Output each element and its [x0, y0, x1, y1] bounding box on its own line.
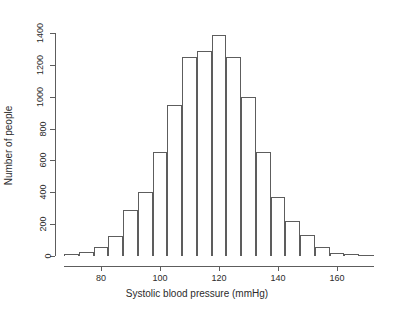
histogram-bar: [315, 247, 330, 256]
x-axis-tick: [101, 266, 102, 271]
histogram-bar: [241, 97, 256, 256]
y-axis-tick: [50, 129, 55, 130]
y-axis-tick: [50, 160, 55, 161]
histogram-bar: [271, 197, 286, 256]
histogram-bar: [359, 255, 374, 256]
histogram-bar: [285, 221, 300, 256]
y-axis-tick-label-wrap: 1000: [22, 83, 50, 111]
x-axis-tick-label: 120: [199, 273, 239, 283]
histogram-bar: [123, 210, 138, 256]
y-axis-tick-label-wrap: 200: [22, 210, 50, 238]
histogram-bar: [330, 253, 345, 256]
histogram-bar: [212, 35, 227, 256]
y-axis-tick-label: 400: [37, 185, 47, 200]
histogram-bar: [300, 235, 315, 256]
y-axis-tick: [50, 224, 55, 225]
histogram-figure: Number of people 02004006008001000120014…: [0, 0, 394, 314]
x-axis-tick-label: 100: [140, 273, 180, 283]
histogram-bar: [344, 254, 359, 256]
y-axis-title-text: Number of people: [4, 105, 15, 185]
x-axis-tick-label: 160: [317, 273, 357, 283]
x-axis-tick: [278, 266, 279, 271]
x-axis-tick-label: 140: [258, 273, 298, 283]
y-axis-tick-label: 1200: [35, 55, 45, 75]
histogram-bar: [197, 51, 212, 256]
y-axis-tick-label-wrap: 0: [22, 242, 50, 270]
y-axis-tick: [50, 192, 55, 193]
y-axis-title: Number of people: [2, 0, 16, 290]
y-axis-tick-label: 0: [42, 253, 52, 258]
y-axis-tick-label-wrap: 400: [22, 178, 50, 206]
y-axis-tick-label-wrap: 1200: [22, 51, 50, 79]
y-axis-tick-label: 200: [37, 217, 47, 232]
y-axis-tick: [50, 97, 55, 98]
histogram-bar: [182, 57, 197, 256]
x-axis-title: Systolic blood pressure (mmHg): [0, 288, 394, 299]
y-axis-tick: [50, 33, 55, 34]
y-axis-tick-label-wrap: 600: [22, 146, 50, 174]
y-axis-tick-label: 800: [37, 121, 47, 136]
histogram-bar: [64, 254, 79, 256]
histogram-bar: [167, 105, 182, 256]
histogram-bar: [153, 152, 168, 256]
y-axis-tick-label: 1000: [35, 87, 45, 107]
plot-area: [64, 33, 374, 256]
y-axis-line: [55, 33, 56, 256]
y-axis-tick-label-wrap: 800: [22, 115, 50, 143]
y-axis-tick: [50, 65, 55, 66]
histogram-bar: [79, 252, 94, 256]
histogram-bar: [94, 247, 109, 256]
histogram-bar: [108, 236, 123, 256]
x-axis-tick: [337, 266, 338, 271]
histogram-bar: [256, 152, 271, 256]
histogram-bar: [138, 192, 153, 256]
y-axis-tick-label: 600: [37, 153, 47, 168]
y-axis-tick-label-wrap: 1400: [22, 19, 50, 47]
y-axis-tick-label: 1400: [35, 23, 45, 43]
x-axis-tick-label: 80: [81, 273, 121, 283]
x-axis-tick: [160, 266, 161, 271]
x-axis-tick: [219, 266, 220, 271]
histogram-bar: [226, 57, 241, 256]
